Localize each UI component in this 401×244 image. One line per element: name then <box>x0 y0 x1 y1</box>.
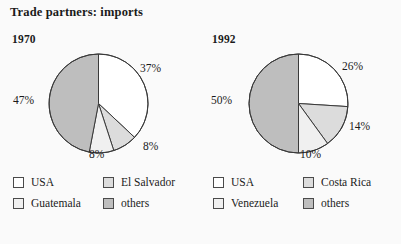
pie-slice <box>49 54 98 152</box>
pie-slice-percentage: 26% <box>342 60 363 72</box>
legend-swatch-icon <box>213 177 224 188</box>
pie-slice-percentage: 8% <box>89 148 104 160</box>
pie-panel-1992: 1992 26%14%10%50% USACosta RicaVenezuela… <box>200 0 400 244</box>
legend-swatch-icon <box>213 198 224 209</box>
legend-item-label: Venezuela <box>231 198 278 210</box>
pie-slice-percentage: 14% <box>349 120 370 132</box>
pie-chart-1992 <box>248 53 349 154</box>
legend-swatch-icon <box>303 177 314 188</box>
legend-item: USA <box>13 177 103 189</box>
legend-item-label: USA <box>231 177 254 189</box>
pie-year-label-1970: 1970 <box>12 33 36 45</box>
pie-slice-percentage: 50% <box>211 94 232 106</box>
legend-item-label: others <box>121 198 149 210</box>
legend-item: Guatemala <box>13 198 103 210</box>
legend-swatch-icon <box>13 198 24 209</box>
pie-year-label-1992: 1992 <box>212 33 236 45</box>
legend-item: USA <box>213 177 303 189</box>
trade-partners-figure: Trade partners: imports 1970 37%8%8%47% … <box>0 0 401 244</box>
legend-item: El Salvador <box>103 177 199 189</box>
legend-item-label: USA <box>31 177 54 189</box>
pie-legend-1970: USAEl SalvadorGuatemalaothers <box>13 172 199 214</box>
pie-slice-percentage: 47% <box>13 94 34 106</box>
pie-chart-1970 <box>48 53 149 154</box>
legend-item: Costa Rica <box>303 177 399 189</box>
legend-item-label: Costa Rica <box>321 177 371 189</box>
legend-item: others <box>103 198 199 210</box>
legend-swatch-icon <box>103 177 114 188</box>
legend-item-label: Guatemala <box>31 198 81 210</box>
pie-slice-percentage: 10% <box>300 148 321 160</box>
legend-item: Venezuela <box>213 198 303 210</box>
pie-slice <box>299 54 348 107</box>
legend-item-label: El Salvador <box>121 177 175 189</box>
legend-swatch-icon <box>103 198 114 209</box>
legend-item-label: others <box>321 198 349 210</box>
pie-panel-1970: 1970 37%8%8%47% USAEl SalvadorGuatemalao… <box>0 0 200 244</box>
pie-svg-1970 <box>48 53 149 154</box>
legend-swatch-icon <box>13 177 24 188</box>
legend-item: others <box>303 198 399 210</box>
pie-slice <box>249 54 298 153</box>
pie-svg-1992 <box>248 53 349 154</box>
pie-slice-percentage: 37% <box>140 62 161 74</box>
pie-legend-1992: USACosta RicaVenezuelaothers <box>213 172 399 214</box>
legend-swatch-icon <box>303 198 314 209</box>
pie-slice-percentage: 8% <box>143 140 158 152</box>
